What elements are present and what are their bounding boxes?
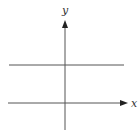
x-axis-arrow-icon <box>120 100 128 106</box>
coordinate-plane: y x <box>0 0 140 140</box>
y-axis-arrow-icon <box>62 20 68 28</box>
x-axis-label: x <box>131 97 138 110</box>
y-axis-label: y <box>61 4 69 17</box>
